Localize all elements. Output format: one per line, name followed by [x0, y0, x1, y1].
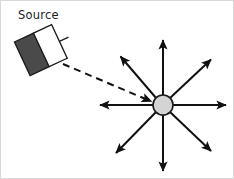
ray-down-right [170, 112, 212, 152]
ray-up-right [170, 60, 212, 99]
source-emitter [14, 20, 76, 75]
source-stem [59, 37, 68, 41]
figure-canvas: Source [0, 0, 234, 179]
scattering-point [153, 95, 173, 115]
source-label: Source [18, 8, 59, 22]
incident-dashed-ray [63, 64, 152, 102]
ray-up-left [121, 57, 157, 99]
diagram-svg: Source [1, 1, 234, 179]
ray-down-left [116, 112, 157, 154]
